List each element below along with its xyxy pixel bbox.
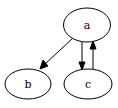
arrowhead-icon [40,60,48,69]
node-a[interactable]: a [64,8,111,42]
node-c-label: c [85,78,91,91]
node-b[interactable]: b [5,69,51,99]
edge-c-to-a [90,41,96,69]
node-c[interactable]: c [64,69,112,99]
graph-canvas: a b c [0,0,118,108]
edge-a-to-c [79,42,85,70]
edge-a-to-b [40,38,73,69]
node-b-label: b [24,78,31,91]
node-a-label: a [84,19,91,32]
